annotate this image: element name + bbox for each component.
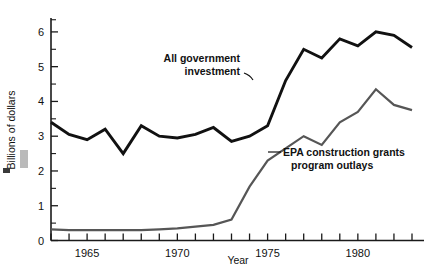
- y-tick-label: 3: [38, 130, 44, 142]
- x-axis-ticks: [51, 234, 412, 241]
- y-axis-title: Billions of dollars: [5, 91, 17, 170]
- x-tick-label: 1965: [75, 247, 99, 259]
- x-tick-label: 1975: [255, 247, 279, 259]
- y-tick-label: 6: [38, 26, 44, 38]
- y-axis-tick-labels: 0123456: [38, 26, 44, 247]
- scan-artifact-smudge: [20, 150, 28, 168]
- y-tick-label: 1: [38, 200, 44, 212]
- y-tick-label: 4: [38, 95, 44, 107]
- chart-figure: 0123456 1965197019751980 All government …: [0, 0, 441, 270]
- annotation-gov-line1: All government: [164, 52, 241, 64]
- x-axis-tick-labels: 1965197019751980: [75, 247, 370, 259]
- y-axis-ticks: [51, 20, 58, 241]
- annotation-gov-line2: investment: [185, 65, 241, 77]
- y-tick-label: 5: [38, 61, 44, 73]
- annotation-epa-line1: EPA construction grants: [283, 146, 405, 158]
- leader-line-gov: [244, 73, 253, 80]
- x-axis-title: Year: [227, 254, 249, 266]
- x-tick-label: 1970: [165, 247, 189, 259]
- y-tick-label: 0: [38, 235, 44, 247]
- scan-artifact-mark: [3, 168, 10, 173]
- y-tick-label: 2: [38, 165, 44, 177]
- line-chart-canvas: 0123456 1965197019751980 All government …: [0, 0, 441, 270]
- series-line-all-government-investment: [51, 32, 412, 154]
- x-tick-label: 1980: [346, 247, 370, 259]
- annotation-epa-line2: program outlays: [291, 159, 373, 171]
